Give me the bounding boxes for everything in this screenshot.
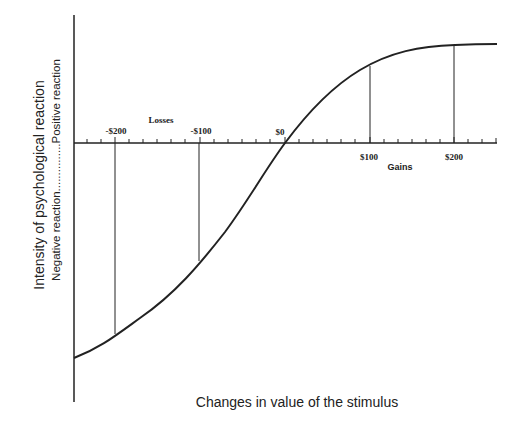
- negative-reaction-label: Negative reaction: [50, 191, 62, 281]
- dotted-leader: ...............: [50, 143, 62, 191]
- x-axis-title: Changes in value of the stimulus: [196, 394, 398, 410]
- gains-label: Gains: [387, 162, 412, 172]
- value-function-curve: [74, 44, 497, 358]
- losses-label: Losses: [148, 115, 174, 125]
- tick-label-zero: $0: [276, 127, 286, 137]
- drop-lines: [115, 46, 454, 334]
- svg-text:Negative reaction.............: Negative reaction...............Positive…: [50, 59, 62, 281]
- x-axis-ticks: [87, 137, 496, 143]
- y-axis-title: Intensity of psychological reaction: [31, 80, 47, 289]
- tick-label-minus-200: -$200: [106, 126, 127, 136]
- value-function-chart: Losses -$200 -$100 $0 $100 $200 Gains Ch…: [0, 0, 524, 421]
- tick-label-200: $200: [445, 152, 464, 162]
- tick-label-minus-100: -$100: [191, 126, 212, 136]
- positive-reaction-label: Positive reaction: [50, 59, 62, 143]
- y-axis-subtitle: Negative reaction...............Positive…: [50, 59, 62, 281]
- tick-label-100: $100: [360, 152, 379, 162]
